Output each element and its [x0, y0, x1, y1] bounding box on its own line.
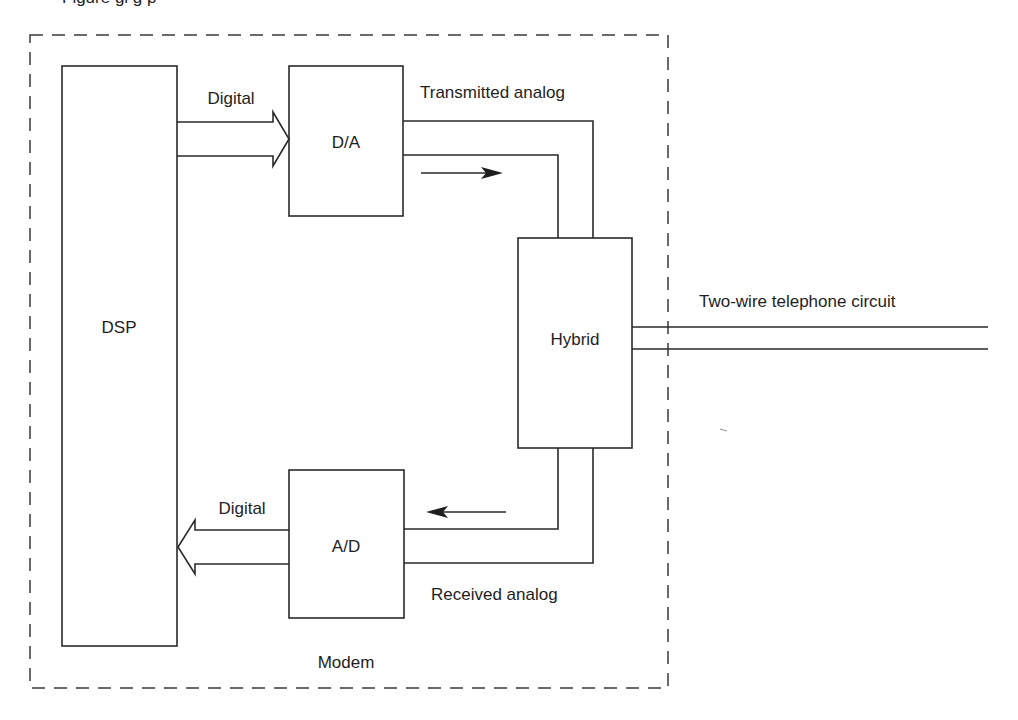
ad-block: A/D	[289, 470, 404, 618]
hybrid-block: Hybrid	[518, 238, 632, 448]
digital-in-label: Digital	[218, 499, 265, 518]
modem-block-diagram: DSP D/A A/D Hybrid Digital Digital Trans…	[0, 0, 1018, 720]
da-label: D/A	[332, 133, 361, 152]
transmitted-analog-label: Transmitted analog	[420, 83, 565, 102]
telephone-circuit-label: Two-wire telephone circuit	[699, 292, 896, 311]
receive-direction-arrow-icon	[426, 506, 506, 518]
digital-out-label: Digital	[207, 89, 254, 108]
receive-wire-inner	[404, 448, 558, 529]
hybrid-label: Hybrid	[550, 330, 599, 349]
da-block: D/A	[289, 66, 403, 216]
transmit-wire-inner	[403, 155, 558, 238]
ad-label: A/D	[332, 537, 360, 556]
caption-fragment: Figure gi g p	[62, 0, 157, 7]
dsp-block: DSP	[62, 66, 177, 646]
received-analog-label: Received analog	[431, 585, 558, 604]
scan-speck	[720, 429, 727, 431]
receive-wire-outer	[404, 448, 593, 563]
transmit-direction-arrow-icon	[421, 167, 503, 179]
modem-label: Modem	[318, 653, 375, 672]
transmit-wire-outer	[403, 121, 593, 238]
dsp-label: DSP	[102, 318, 137, 337]
digital-out-arrow-icon	[177, 112, 289, 166]
digital-in-arrow-icon	[178, 520, 289, 574]
